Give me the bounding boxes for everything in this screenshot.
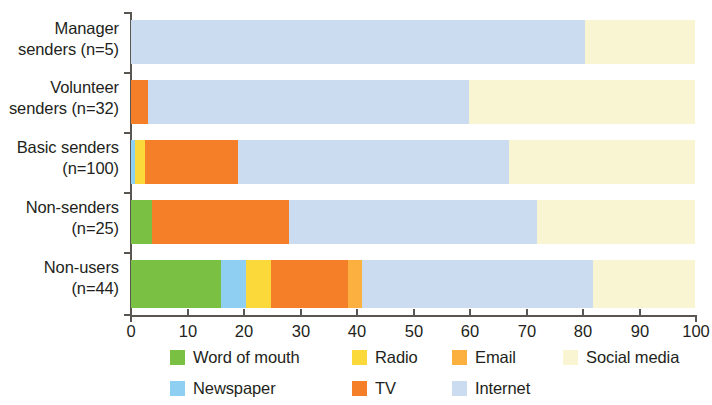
segment-word-of-mouth <box>131 200 152 244</box>
segment-radio <box>246 260 271 308</box>
x-axis-tick <box>695 315 697 322</box>
segment-internet <box>131 20 585 64</box>
bar-manager-senders <box>131 20 695 64</box>
x-axis-tick <box>243 309 245 316</box>
legend-label: Social media <box>586 348 679 367</box>
segment-social-media <box>593 260 695 308</box>
segment-tv <box>152 200 289 244</box>
x-tick-label-90: 90 <box>631 322 649 341</box>
x-axis-tick <box>356 309 358 316</box>
legend-label: Word of mouth <box>193 348 300 367</box>
legend-label: Radio <box>375 348 418 367</box>
bar-non-senders <box>131 200 695 244</box>
category-label-non-users: Non-users (n=44) <box>44 257 119 299</box>
newspaper-swatch-icon <box>170 381 185 396</box>
radio-swatch-icon <box>352 350 367 365</box>
x-axis-tick <box>582 309 584 316</box>
segment-internet <box>238 140 509 184</box>
x-axis-tick <box>413 309 415 316</box>
legend-label: Email <box>475 348 516 367</box>
segment-social-media <box>469 80 695 124</box>
segment-word-of-mouth <box>131 260 221 308</box>
segment-social-media <box>585 20 695 64</box>
bar-non-users <box>131 260 695 308</box>
x-tick-label-30: 30 <box>292 322 310 341</box>
x-axis-tick <box>300 309 302 316</box>
legend-label: Newspaper <box>193 379 276 398</box>
x-tick-label-0: 0 <box>126 322 135 341</box>
category-label-volunteer-senders: Volunteer senders (n=32) <box>9 77 119 119</box>
x-tick-label-20: 20 <box>235 322 253 341</box>
legend: Word of mouth Radio Email Social media N… <box>0 348 712 405</box>
legend-item-internet: Internet <box>452 379 530 398</box>
legend-item-social-media: Social media <box>563 348 679 367</box>
segment-social-media <box>509 140 695 184</box>
social-media-swatch-icon <box>563 350 578 365</box>
category-axis-labels: Manager senders (n=5) Volunteer senders … <box>0 12 125 315</box>
segment-email <box>348 260 362 308</box>
x-tick-label-10: 10 <box>179 322 197 341</box>
legend-label: Internet <box>475 379 530 398</box>
legend-label: TV <box>375 379 396 398</box>
category-label-manager-senders: Manager senders (n=5) <box>18 18 119 60</box>
x-tick-label-70: 70 <box>518 322 536 341</box>
legend-item-tv: TV <box>352 379 396 398</box>
segment-internet <box>289 200 537 244</box>
segment-tv <box>271 260 348 308</box>
plot-area <box>131 12 695 315</box>
category-label-non-senders: Non-senders (n=25) <box>26 197 119 239</box>
segment-internet <box>148 80 469 124</box>
x-axis-tick <box>469 309 471 316</box>
segment-tv <box>145 140 238 184</box>
word-of-mouth-swatch-icon <box>170 350 185 365</box>
segment-newspaper <box>221 260 246 308</box>
bar-volunteer-senders <box>131 80 695 124</box>
tv-swatch-icon <box>352 381 367 396</box>
segment-tv <box>131 80 148 124</box>
x-tick-label-60: 60 <box>461 322 479 341</box>
x-tick-label-40: 40 <box>348 322 366 341</box>
x-tick-label-100: 100 <box>682 322 710 341</box>
category-label-basic-senders: Basic senders (n=100) <box>17 137 119 179</box>
x-tick-label-80: 80 <box>574 322 592 341</box>
legend-item-word-of-mouth: Word of mouth <box>170 348 300 367</box>
x-axis-tick <box>130 315 132 322</box>
x-axis-tick <box>526 309 528 316</box>
legend-item-email: Email <box>452 348 516 367</box>
legend-item-radio: Radio <box>352 348 418 367</box>
bar-basic-senders <box>131 140 695 184</box>
x-axis-tick <box>639 309 641 316</box>
segment-radio <box>135 140 145 184</box>
email-swatch-icon <box>452 350 467 365</box>
segment-internet <box>362 260 593 308</box>
x-axis-tick <box>187 309 189 316</box>
internet-swatch-icon <box>452 381 467 396</box>
legend-item-newspaper: Newspaper <box>170 379 276 398</box>
x-tick-label-50: 50 <box>405 322 423 341</box>
segment-social-media <box>537 200 695 244</box>
stacked-bar-chart: Manager senders (n=5) Volunteer senders … <box>0 0 712 405</box>
